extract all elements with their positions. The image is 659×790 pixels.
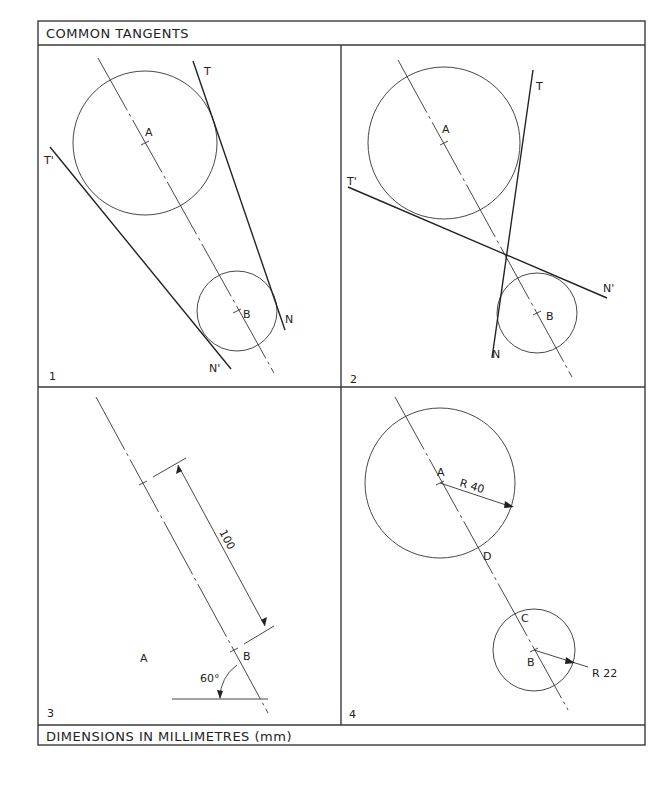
label-b: B: [243, 650, 251, 663]
panel-number: 3: [47, 707, 54, 720]
label-n-prime: N': [603, 282, 614, 295]
sheet-frame: [38, 21, 645, 745]
sheet-title: COMMON TANGENTS: [46, 26, 189, 41]
label-n: N: [285, 313, 293, 326]
label-t: T: [535, 80, 543, 93]
label-c: C: [521, 612, 529, 625]
panel-3: 100 A B 60° 3: [47, 397, 274, 720]
centre-line: [398, 60, 572, 377]
label-a: A: [442, 123, 450, 136]
panel-1: A B T T' N N' 1: [43, 58, 293, 383]
label-d: D: [483, 550, 491, 563]
label-b: B: [243, 308, 251, 321]
label-a: A: [437, 466, 445, 479]
extension-line-a: [153, 458, 186, 477]
label-b: B: [546, 310, 554, 323]
label-t-prime: T': [43, 154, 54, 167]
panel-number: 2: [350, 373, 357, 386]
tangent-t-prime-n-prime: [348, 187, 607, 298]
label-a: A: [145, 126, 153, 139]
label-a: A: [140, 652, 148, 665]
label-t: T: [203, 65, 211, 78]
panel-number: 1: [49, 370, 56, 383]
dimension-line-100: [178, 465, 265, 626]
tangent-t-n: [492, 70, 533, 358]
centre-line: [395, 397, 568, 710]
centre-mark-a: [139, 481, 147, 485]
extension-line-b: [244, 626, 274, 644]
label-r22: R 22: [592, 667, 617, 680]
angle-arrowhead: [217, 690, 223, 699]
centre-mark-b: [533, 311, 541, 315]
angle-value: 60°: [200, 672, 220, 685]
tangent-t-prime-n-prime: [50, 147, 231, 369]
panel-4: A R 40 D C B R 22 4: [349, 397, 617, 721]
units-note: DIMENSIONS IN MILLIMETRES (mm): [46, 729, 292, 744]
angle-arc: [220, 665, 237, 698]
centre-line: [96, 397, 268, 713]
label-n: N: [492, 348, 500, 361]
panel-2: A B T T' N N' 2: [346, 60, 614, 386]
label-n-prime: N': [209, 362, 220, 375]
dimension-value: 100: [216, 527, 237, 552]
centre-line: [98, 58, 274, 373]
label-t-prime: T': [346, 175, 357, 188]
label-b: B: [527, 656, 535, 669]
panel-number: 4: [349, 708, 356, 721]
tangent-t-n: [193, 61, 285, 330]
common-tangents-sheet: COMMON TANGENTS DIMENSIONS IN MILLIMETRE…: [0, 0, 659, 790]
radius-leader-b: [534, 650, 588, 667]
